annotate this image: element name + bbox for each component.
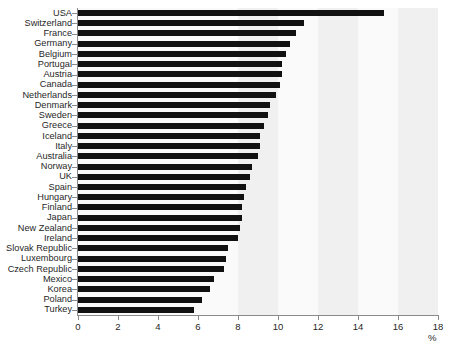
bar	[78, 153, 258, 159]
bar	[78, 286, 210, 292]
bar	[78, 41, 290, 47]
y-axis-tick	[72, 300, 77, 301]
bar	[78, 10, 384, 16]
bar	[78, 102, 270, 108]
y-axis-tick	[72, 54, 77, 55]
y-axis-label: Finland	[0, 202, 72, 212]
x-axis-tick	[158, 315, 159, 320]
bar-row	[78, 141, 438, 151]
bar	[78, 112, 268, 118]
y-axis-tick	[72, 269, 77, 270]
bar	[78, 133, 260, 139]
bar	[78, 174, 250, 180]
x-axis-tick-label: 14	[343, 321, 373, 332]
bar-row	[78, 100, 438, 110]
y-axis-label: Ireland	[0, 233, 72, 243]
y-axis-tick	[72, 64, 77, 65]
bar-row	[78, 182, 438, 192]
bar	[78, 194, 244, 200]
y-axis-label: Slovak Republic	[0, 243, 72, 253]
y-axis-label: Hungary	[0, 192, 72, 202]
bar	[78, 30, 296, 36]
x-axis-tick-label: 18	[423, 321, 453, 332]
bar-row	[78, 264, 438, 274]
bar	[78, 92, 276, 98]
x-axis-tick	[78, 315, 79, 320]
x-axis-line	[77, 315, 438, 316]
x-axis-tick-label: 16	[383, 321, 413, 332]
bar-row	[78, 254, 438, 264]
bar	[78, 164, 252, 170]
y-axis-label: Czech Republic	[0, 264, 72, 274]
y-axis-label: Italy	[0, 141, 72, 151]
bar-row	[78, 305, 438, 315]
y-axis-tick	[72, 310, 77, 311]
y-axis-tick	[72, 177, 77, 178]
x-axis-tick-label: 2	[103, 321, 133, 332]
y-axis-label: Poland	[0, 294, 72, 304]
y-axis-label: Mexico	[0, 274, 72, 284]
bar	[78, 143, 260, 149]
y-axis-tick	[72, 228, 77, 229]
y-axis-tick	[72, 259, 77, 260]
bar-row	[78, 295, 438, 305]
bar-chart: USASwitzerlandFranceGermanyBelgiumPortug…	[0, 0, 455, 346]
y-axis-label: Sweden	[0, 110, 72, 120]
y-axis-label: Switzerland	[0, 18, 72, 28]
y-axis-tick	[72, 136, 77, 137]
y-axis-label: Korea	[0, 284, 72, 294]
bar	[78, 276, 214, 282]
bar-row	[78, 233, 438, 243]
bar-row	[78, 39, 438, 49]
y-axis-label: UK	[0, 171, 72, 181]
bar-row	[78, 192, 438, 202]
bar	[78, 20, 304, 26]
x-axis-tick-label: 0	[63, 321, 93, 332]
y-axis-tick	[72, 208, 77, 209]
bar-row	[78, 151, 438, 161]
y-axis-label: Netherlands	[0, 90, 72, 100]
bar	[78, 61, 282, 67]
y-axis-tick	[72, 279, 77, 280]
bar-row	[78, 69, 438, 79]
bar	[78, 184, 246, 190]
y-axis-tick	[72, 187, 77, 188]
bar-row	[78, 223, 438, 233]
y-axis-label: Norway	[0, 161, 72, 171]
bar-row	[78, 162, 438, 172]
y-axis-tick	[72, 146, 77, 147]
bar-row	[78, 28, 438, 38]
y-axis-label: Germany	[0, 38, 72, 48]
y-axis-label: Greece	[0, 120, 72, 130]
y-axis-label: Denmark	[0, 100, 72, 110]
y-axis-tick	[72, 44, 77, 45]
y-axis-label: Austria	[0, 69, 72, 79]
y-axis-label: Belgium	[0, 49, 72, 59]
x-axis-tick-label: 12	[303, 321, 333, 332]
y-axis-tick	[72, 238, 77, 239]
bar-row	[78, 110, 438, 120]
x-axis-tick	[438, 315, 439, 320]
bar	[78, 204, 242, 210]
y-axis-tick	[72, 75, 77, 76]
bar-row	[78, 80, 438, 90]
x-axis-tick-label: 4	[143, 321, 173, 332]
bar-row	[78, 202, 438, 212]
y-axis-line	[77, 8, 78, 315]
bar-row	[78, 8, 438, 18]
y-axis-label: USA	[0, 8, 72, 18]
bar-row	[78, 274, 438, 284]
y-axis-label: Portugal	[0, 59, 72, 69]
y-axis-label: New Zealand	[0, 223, 72, 233]
bar	[78, 225, 240, 231]
bar	[78, 297, 202, 303]
bar-row	[78, 90, 438, 100]
x-axis-tick	[118, 315, 119, 320]
x-axis-tick-label: 6	[183, 321, 213, 332]
bar	[78, 245, 228, 251]
y-axis-tick	[72, 34, 77, 35]
y-axis-label: Spain	[0, 182, 72, 192]
x-axis-tick	[198, 315, 199, 320]
y-axis-tick	[72, 156, 77, 157]
bar	[78, 307, 194, 313]
